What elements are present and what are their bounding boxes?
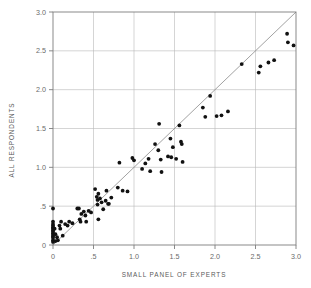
x-tick-label: 1.0	[129, 252, 139, 261]
data-point	[156, 148, 160, 152]
data-point	[121, 189, 125, 193]
data-point	[258, 64, 262, 68]
y-tick-label: 1.0	[36, 163, 46, 172]
data-point	[71, 221, 75, 225]
scatter-plot: 0.51.01.52.02.53.0 0.51.01.52.02.53.0 SM…	[0, 0, 311, 288]
data-point	[272, 58, 276, 62]
data-point	[147, 157, 151, 161]
data-point	[180, 142, 184, 146]
data-point	[79, 220, 83, 224]
y-axis-title: ALL RESPONDENTS	[8, 102, 15, 177]
x-tick-label: 3.0	[291, 252, 301, 261]
data-point	[96, 217, 100, 221]
data-point	[208, 94, 212, 98]
data-point	[220, 113, 224, 117]
data-point	[98, 197, 102, 201]
data-point	[101, 207, 105, 211]
data-point	[160, 170, 164, 174]
data-point	[61, 234, 65, 238]
data-point	[109, 196, 113, 200]
data-point	[201, 106, 205, 110]
data-point	[67, 220, 71, 224]
data-point	[240, 62, 244, 66]
data-point	[174, 157, 178, 161]
data-point	[181, 160, 185, 164]
data-point	[116, 186, 120, 190]
data-point	[100, 200, 104, 204]
x-tick-label: 1.5	[170, 252, 180, 261]
data-point	[84, 220, 88, 224]
data-point	[107, 202, 111, 206]
data-point	[82, 210, 86, 214]
data-point	[169, 137, 173, 141]
data-point	[93, 187, 97, 191]
data-point	[104, 199, 108, 203]
y-tick-label: 1.5	[36, 124, 46, 133]
data-point	[51, 207, 55, 211]
data-point	[171, 145, 175, 149]
data-point	[53, 227, 57, 231]
data-point	[140, 167, 144, 171]
y-tick-label: 3.0	[36, 8, 46, 17]
data-point	[77, 207, 81, 211]
data-point	[126, 190, 130, 194]
data-point	[59, 220, 63, 224]
data-point	[267, 61, 271, 65]
data-point	[89, 210, 93, 214]
data-point	[177, 123, 181, 127]
data-point	[285, 32, 289, 36]
data-point	[96, 192, 100, 196]
data-point	[215, 114, 219, 118]
x-tick-label: 0	[51, 252, 55, 261]
data-point	[257, 71, 261, 75]
y-tick-label: 2.0	[36, 85, 46, 94]
data-point	[96, 203, 100, 207]
data-point	[286, 40, 290, 44]
x-tick-labels: 0.51.01.52.02.53.0	[51, 252, 301, 261]
data-point	[169, 155, 173, 159]
data-point	[132, 158, 136, 162]
figure-container: 0.51.01.52.02.53.0 0.51.01.52.02.53.0 SM…	[0, 0, 311, 288]
data-point	[66, 224, 70, 228]
data-point	[226, 110, 230, 114]
data-point	[157, 122, 161, 126]
data-point	[159, 158, 163, 162]
x-tick-label: 2.0	[210, 252, 220, 261]
y-tick-label: 0	[42, 241, 46, 250]
data-point	[166, 155, 170, 159]
data-point	[153, 142, 157, 146]
x-tick-label: .5	[91, 252, 97, 261]
x-axis-title: SMALL PANEL OF EXPERTS	[122, 271, 227, 278]
data-point	[56, 238, 60, 242]
y-tick-label: 2.5	[36, 46, 46, 55]
y-tick-labels: 0.51.01.52.02.53.0	[36, 8, 46, 250]
data-point	[203, 115, 207, 119]
data-point	[118, 161, 122, 165]
data-point	[143, 162, 147, 166]
data-point	[105, 189, 109, 193]
x-tick-label: 2.5	[251, 252, 261, 261]
data-point	[84, 214, 88, 218]
data-point	[148, 169, 152, 173]
y-tick-label: .5	[40, 202, 46, 211]
data-point	[292, 44, 296, 48]
data-point	[58, 227, 62, 231]
